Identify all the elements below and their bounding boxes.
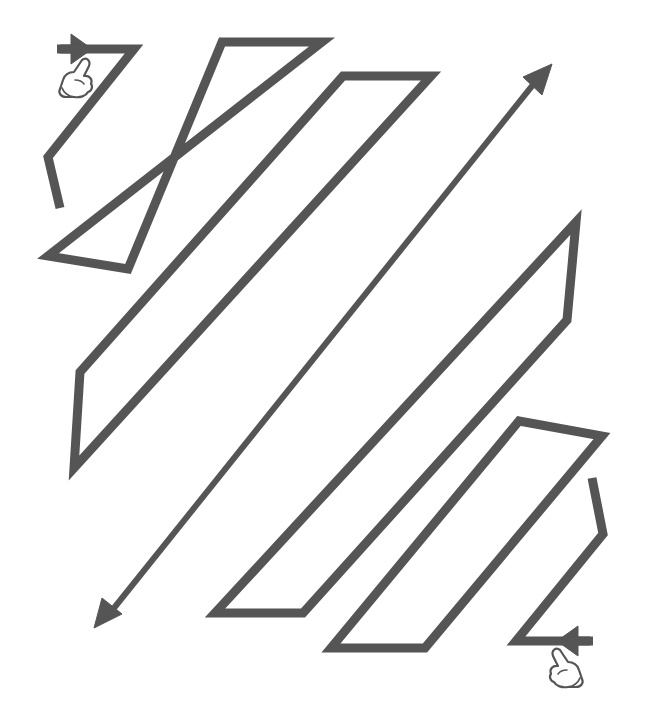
tracing-worksheet: Line tracing zigzag worksheet [0,0,645,721]
worksheet-canvas [0,0,645,721]
background [0,0,645,721]
